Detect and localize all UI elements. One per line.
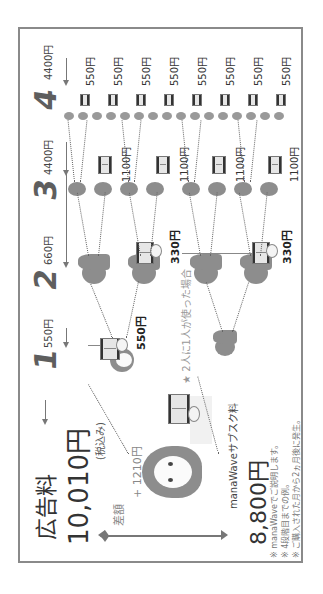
- level-2-avatar: [190, 254, 222, 284]
- level-4-unit-amount: 550円: [110, 57, 125, 86]
- tablet-icon: [212, 156, 226, 174]
- level-4-tablets: [80, 92, 294, 106]
- level-4-unit-amount: 550円: [166, 57, 181, 86]
- level-2-total: 660円: [40, 236, 55, 265]
- difference-double-arrow: [102, 535, 222, 537]
- note-3: ※ ご購入された月から2ヵ月後に発生。: [290, 416, 301, 558]
- coin-icon: [188, 406, 200, 422]
- difference-label: 差額: [110, 504, 126, 526]
- level-4-people: [64, 108, 290, 120]
- level-4-unit-amount: 550円: [194, 57, 209, 86]
- tax-included-note: (税込み): [92, 422, 107, 460]
- subscription-label: manaWaveサブスク料: [225, 403, 240, 509]
- main-flow-arrow-line: [45, 400, 46, 420]
- level-1-unit-amount: 550円: [132, 316, 148, 350]
- subscriber-avatar: [142, 440, 210, 504]
- coin-icon: [266, 244, 278, 258]
- level-4-unit-amount: 550円: [250, 57, 265, 86]
- level-4-unit-amount: 550円: [222, 57, 237, 86]
- level-4-unit-amount: 550円: [278, 57, 293, 86]
- ad-fee-title: 広告料: [28, 474, 60, 540]
- ad-fee-total: 10,010円: [58, 428, 95, 545]
- arrow-left-icon: [63, 262, 69, 268]
- level-3-unit-amount: 1100円: [176, 147, 191, 182]
- infographic-stage: 広告料 10,010円 (税込み) 1 550円 2 660円 3 4400円 …: [0, 0, 323, 594]
- level-2-avatar: [78, 254, 110, 284]
- level-1-nonuser-avatar: [215, 330, 243, 358]
- main-flow-arrow-icon: [42, 419, 48, 425]
- level-4-total: 4400円: [40, 45, 55, 80]
- arrow-up-icon: [98, 530, 105, 540]
- level-4-unit-amount: 550円: [138, 57, 153, 86]
- arrow-down-icon: [221, 530, 228, 540]
- face-shape: [154, 456, 192, 488]
- level-3-unit-amount: 1100円: [286, 147, 301, 182]
- tablet-icon: [156, 156, 170, 174]
- level-4-unit-amount: 550円: [82, 57, 97, 86]
- arrow-left-icon: [63, 80, 69, 86]
- level-1-total: 550円: [40, 319, 55, 348]
- note-1: ※ manaWaveでご説明します。: [268, 441, 279, 558]
- coin-icon: [116, 338, 128, 352]
- arrow-left-icon: [63, 342, 69, 348]
- level-2-unit-amount: 330円: [278, 230, 294, 264]
- scenario-note: ★ 2人に1人が使った場合: [178, 269, 193, 384]
- arrow-left-icon: [63, 170, 69, 176]
- level-2-unit-amount: 330円: [166, 230, 182, 264]
- eye-icon: [168, 462, 173, 466]
- tablet-icon: [168, 394, 190, 424]
- tablet-icon: [98, 156, 112, 174]
- level-3-total: 4400円: [40, 140, 55, 175]
- eye-icon: [168, 478, 173, 482]
- tablet-icon: [268, 156, 282, 174]
- level-3-unit-amount: 1100円: [232, 147, 247, 182]
- note-2: ※ 4段階目までの例。: [279, 480, 290, 558]
